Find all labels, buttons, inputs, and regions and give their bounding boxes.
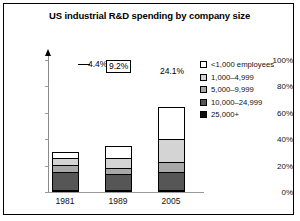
bar-1981[interactable] — [52, 152, 79, 192]
segment-1989-5000-9999 — [106, 169, 131, 176]
segment-1989-1000-4999 — [106, 159, 131, 169]
legend-swatch-icon-1000-4999 — [200, 74, 207, 81]
legend-item-25000-plus[interactable]: 25,000+ — [200, 110, 294, 119]
legend-label-1000-4999: 1,000–4,999 — [211, 73, 254, 82]
bar-1989[interactable] — [105, 146, 132, 192]
legend-swatch-icon-10000-24999 — [200, 99, 207, 106]
x-axis-label-2005: 2005 — [148, 196, 194, 206]
segment-1981-5000-9999 — [53, 166, 78, 173]
segment-1981-10000-24999 — [53, 173, 78, 191]
x-axis-line — [48, 192, 204, 193]
segment-1981-1000-4999 — [53, 159, 78, 166]
chart-title: US industrial R&D spending by company si… — [4, 10, 295, 21]
legend-item-10000-24999[interactable]: 10,000–24,999 — [200, 98, 294, 107]
legend-swatch-icon-5000-9999 — [200, 86, 207, 93]
legend-item-under-1000[interactable]: <1,000 employees — [200, 60, 294, 69]
segment-2005-under-1000 — [159, 108, 184, 140]
legend-item-1000-4999[interactable]: 1,000–4,999 — [200, 73, 294, 82]
data-label-2005: 24.1% — [160, 67, 184, 76]
segment-2005-1000-4999 — [159, 140, 184, 163]
segment-1989-10000-24999 — [106, 175, 131, 191]
x-axis-label-1989: 1989 — [95, 196, 141, 206]
legend-label-5000-9999: 5,000–9,999 — [211, 85, 254, 94]
data-label-1981: 4.4% — [88, 60, 107, 69]
data-label-1989: 9.2% — [106, 60, 131, 73]
chart-legend: <1,000 employees 1,000–4,999 5,000–9,999… — [200, 60, 294, 123]
segment-2005-10000-24999 — [159, 173, 184, 191]
segment-1989-under-1000 — [106, 147, 131, 159]
chart-frame: US industrial R&D spending by company si… — [3, 3, 294, 215]
y-tick-label-0: 0% — [253, 188, 293, 197]
legend-label-25000-plus: 25,000+ — [211, 110, 239, 119]
segment-2005-5000-9999 — [159, 163, 184, 173]
legend-label-10000-24999: 10,000–24,999 — [211, 98, 262, 107]
legend-item-5000-9999[interactable]: 5,000–9,999 — [200, 85, 294, 94]
x-axis-label-1981: 1981 — [42, 196, 88, 206]
legend-swatch-icon-under-1000 — [200, 61, 207, 68]
y-axis-arrow-icon — [45, 49, 51, 56]
legend-label-under-1000: <1,000 employees — [211, 60, 274, 69]
legend-swatch-icon-25000-plus — [200, 111, 207, 118]
y-tick-label-20: 20% — [253, 161, 293, 170]
y-tick-label-40: 40% — [253, 135, 293, 144]
bar-2005[interactable] — [158, 107, 185, 192]
y-tick-mark-0 — [45, 192, 49, 193]
plot-area — [49, 60, 189, 192]
